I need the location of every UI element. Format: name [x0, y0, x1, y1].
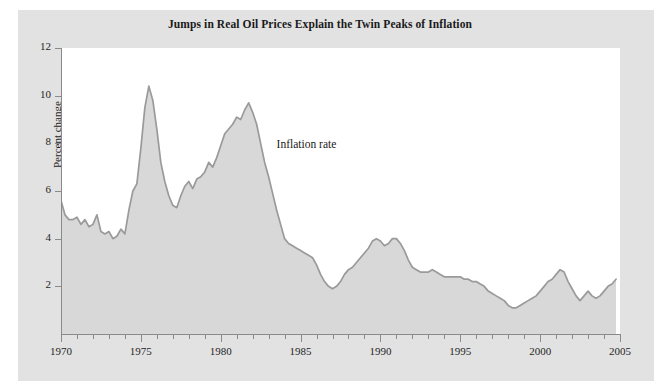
figure-panel: Jumps in Real Oil Prices Explain the Twi… — [18, 10, 654, 381]
y-axis-line — [61, 48, 62, 335]
x-tick-major-1980 — [221, 335, 222, 342]
x-tick-minor-1986 — [317, 335, 318, 339]
x-tick-minor-1987 — [333, 335, 334, 339]
x-tick-minor-1971 — [77, 335, 78, 339]
x-tick-minor-1988 — [348, 335, 349, 339]
x-tick-minor-1992 — [412, 335, 413, 339]
x-tick-major-1970 — [61, 335, 62, 342]
x-tick-label: 1985 — [290, 345, 312, 357]
x-tick-label: 1970 — [50, 345, 72, 357]
x-tick-minor-1978 — [189, 335, 190, 339]
series-annotation-inflation-rate: Inflation rate — [277, 138, 337, 150]
x-tick-minor-1974 — [125, 335, 126, 339]
x-tick-minor-1996 — [476, 335, 477, 339]
x-tick-minor-1977 — [173, 335, 174, 339]
y-tick-8: 8 — [55, 143, 61, 144]
x-tick-minor-1983 — [269, 335, 270, 339]
x-tick-minor-1981 — [237, 335, 238, 339]
x-tick-minor-2002 — [572, 335, 573, 339]
x-tick-major-2000 — [540, 335, 541, 342]
x-tick-minor-1979 — [205, 335, 206, 339]
x-tick-label: 1990 — [369, 345, 391, 357]
x-tick-major-1990 — [380, 335, 381, 342]
x-tick-label: 1980 — [210, 345, 232, 357]
plot-wrapper: Percent change 12108642 1970197519801985… — [61, 48, 620, 334]
x-tick-minor-1997 — [492, 335, 493, 339]
x-tick-minor-2001 — [556, 335, 557, 339]
y-tick-6: 6 — [55, 191, 61, 192]
plot-area — [61, 48, 620, 334]
x-axis-line — [61, 334, 621, 335]
y-tick-label: 10 — [40, 88, 51, 100]
y-tick-label: 6 — [46, 183, 52, 195]
x-tick-minor-1993 — [428, 335, 429, 339]
inflation-area-fill — [61, 86, 616, 334]
y-tick-2: 2 — [55, 286, 61, 287]
area-chart-svg — [61, 48, 620, 334]
x-tick-label: 2005 — [609, 345, 631, 357]
x-tick-label: 1995 — [449, 345, 471, 357]
x-tick-label: 1975 — [130, 345, 152, 357]
x-tick-minor-1972 — [93, 335, 94, 339]
chart-title: Jumps in Real Oil Prices Explain the Twi… — [18, 18, 622, 30]
y-tick-4: 4 — [55, 239, 61, 240]
y-tick-label: 8 — [46, 135, 52, 147]
x-tick-minor-1994 — [444, 335, 445, 339]
y-tick-label: 4 — [46, 231, 52, 243]
x-tick-minor-1984 — [285, 335, 286, 339]
x-tick-minor-1989 — [364, 335, 365, 339]
x-tick-minor-1999 — [524, 335, 525, 339]
x-tick-minor-1982 — [253, 335, 254, 339]
x-tick-minor-2003 — [588, 335, 589, 339]
y-tick-label: 2 — [46, 278, 52, 290]
x-tick-minor-2004 — [604, 335, 605, 339]
x-tick-minor-1998 — [508, 335, 509, 339]
x-tick-major-1975 — [141, 335, 142, 342]
y-tick-10: 10 — [55, 96, 61, 97]
x-tick-major-1995 — [460, 335, 461, 342]
x-tick-major-1985 — [301, 335, 302, 342]
x-tick-major-2005 — [620, 335, 621, 342]
y-tick-label: 12 — [40, 40, 51, 52]
x-tick-minor-1976 — [157, 335, 158, 339]
x-tick-minor-1973 — [109, 335, 110, 339]
x-tick-label: 2000 — [529, 345, 551, 357]
x-tick-minor-1991 — [396, 335, 397, 339]
y-tick-12: 12 — [55, 48, 61, 49]
